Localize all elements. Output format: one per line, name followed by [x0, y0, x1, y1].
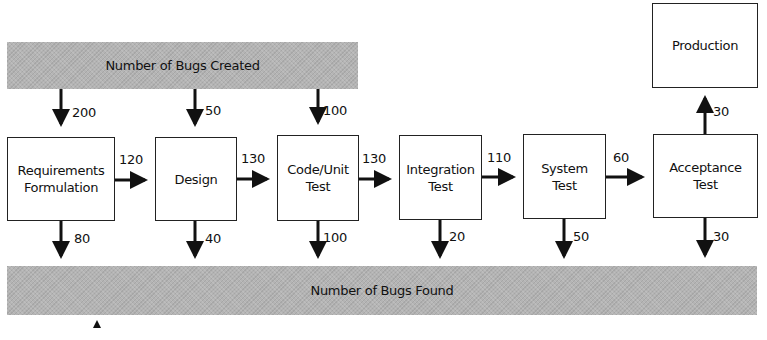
found-count-acceptance: 30 — [713, 229, 729, 244]
found-count-code: 100 — [323, 230, 347, 245]
stage-system-test: SystemTest — [523, 134, 606, 219]
stage-label: Design — [174, 171, 217, 188]
stage-design: Design — [155, 137, 237, 221]
stage-code-unit-test: Code/UnitTest — [277, 135, 359, 221]
stage-label: Test — [287, 178, 348, 195]
stage-requirements-formulation: RequirementsFormulation — [7, 137, 115, 221]
found-count-requirements: 80 — [74, 231, 90, 246]
passed-count-system: 60 — [613, 150, 629, 165]
found-count-design: 40 — [205, 231, 221, 246]
passed-count-code: 130 — [362, 151, 386, 166]
created-count-requirements: 200 — [72, 105, 96, 120]
stage-integration-test: IntegrationTest — [399, 135, 482, 220]
passed-count-design: 130 — [241, 151, 265, 166]
created-count-design: 50 — [205, 103, 221, 118]
passed-count-acceptance: 30 — [713, 104, 729, 119]
stage-label: Test — [406, 178, 474, 195]
production-box: Production — [652, 3, 758, 88]
stage-label: Requirements — [18, 162, 105, 179]
found-count-integration: 20 — [449, 229, 465, 244]
stage-label: Formulation — [18, 179, 105, 196]
stage-label: Integration — [406, 161, 474, 178]
passed-count-requirements: 120 — [119, 152, 143, 167]
production-label: Production — [672, 37, 738, 54]
stage-label: Test — [541, 177, 588, 194]
stage-label: Test — [669, 176, 742, 193]
stage-acceptance-test: AcceptanceTest — [653, 134, 758, 218]
stage-label: Acceptance — [669, 159, 742, 176]
stage-label: System — [541, 160, 588, 177]
passed-count-integration: 110 — [487, 150, 511, 165]
stage-label: Code/Unit — [287, 161, 348, 178]
created-count-code: 100 — [323, 103, 347, 118]
found-count-system: 50 — [573, 229, 589, 244]
